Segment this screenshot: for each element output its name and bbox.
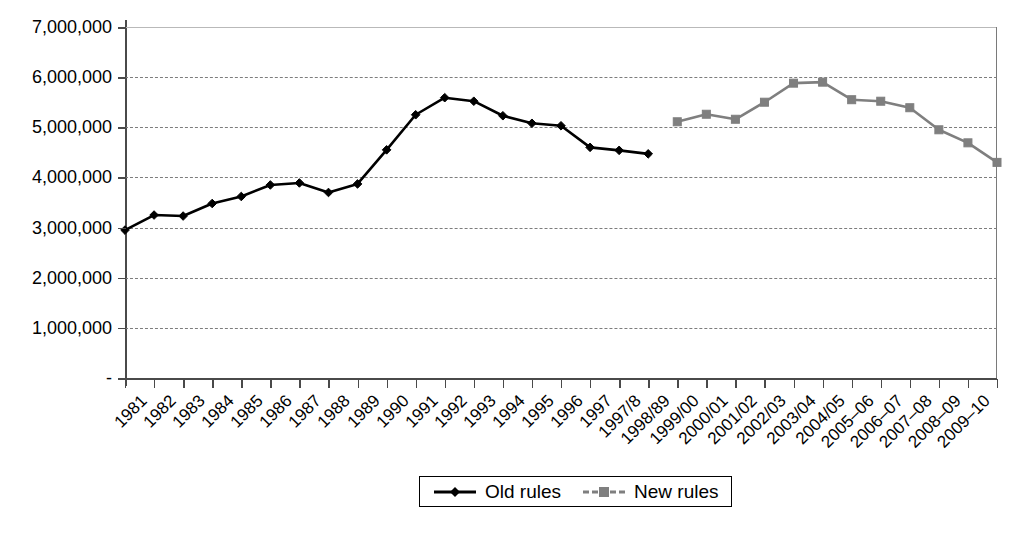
- data-point-marker: [848, 96, 856, 104]
- x-axis-tick: [590, 379, 591, 388]
- data-point-marker: [324, 188, 333, 197]
- data-point-marker: [702, 110, 710, 118]
- x-axis-tick: [328, 379, 329, 388]
- x-axis-tick: [474, 379, 475, 388]
- x-axis-tick: [735, 379, 736, 388]
- data-point-marker: [819, 78, 827, 86]
- data-point-marker: [673, 118, 681, 126]
- data-point-marker: [731, 115, 739, 123]
- legend-entry: New rules: [581, 482, 718, 501]
- y-axis-tick: [118, 77, 126, 79]
- data-point-marker: [790, 79, 798, 87]
- x-axis-tick: [997, 379, 998, 388]
- data-point-marker: [760, 98, 768, 106]
- x-axis-tick: [241, 379, 242, 388]
- x-axis-tick: [445, 379, 446, 388]
- x-axis-tick: [183, 379, 184, 388]
- data-point-marker: [993, 158, 1001, 166]
- line-chart: -1,000,0002,000,0003,000,0004,000,0005,0…: [0, 0, 1015, 533]
- x-axis-tick: [706, 379, 707, 388]
- legend-label: Old rules: [485, 482, 561, 501]
- x-axis-tick: [910, 379, 911, 388]
- legend-square-icon: [581, 484, 627, 500]
- x-axis-tick: [503, 379, 504, 388]
- x-axis-tick: [823, 379, 824, 388]
- x-axis-tick: [416, 379, 417, 388]
- x-axis-tick: [881, 379, 882, 388]
- x-axis-tick: [619, 379, 620, 388]
- x-axis-tick: [648, 379, 649, 388]
- data-point-marker: [499, 111, 508, 120]
- chart-legend: Old rulesNew rules: [419, 476, 732, 507]
- y-axis-tick: [118, 228, 126, 230]
- x-axis-tick: [532, 379, 533, 388]
- legend-label: New rules: [634, 482, 718, 501]
- y-axis-tick: [118, 328, 126, 330]
- x-axis-tick: [677, 379, 678, 388]
- data-point-marker: [179, 212, 188, 221]
- data-point-marker: [528, 119, 537, 128]
- y-axis-tick: [118, 278, 126, 280]
- data-point-marker: [237, 192, 246, 201]
- y-axis-tick: [118, 177, 126, 179]
- series-layer: [0, 0, 1015, 533]
- x-axis-tick: [561, 379, 562, 388]
- x-axis-tick: [968, 379, 969, 388]
- data-point-marker: [470, 97, 479, 106]
- x-axis-tick: [852, 379, 853, 388]
- data-point-marker: [615, 146, 624, 155]
- x-axis-tick: [939, 379, 940, 388]
- series-line: [125, 98, 648, 230]
- series-old-rules: [121, 93, 653, 234]
- x-axis-tick: [125, 379, 126, 388]
- x-axis-tick: [764, 379, 765, 388]
- x-axis-tick: [154, 379, 155, 388]
- series-line: [677, 82, 997, 162]
- data-point-marker: [935, 126, 943, 134]
- data-point-marker: [964, 139, 972, 147]
- legend-diamond-icon: [432, 484, 478, 500]
- data-point-marker: [644, 150, 653, 159]
- y-axis-tick: [118, 127, 126, 129]
- data-point-marker: [266, 181, 275, 190]
- x-axis-tick: [387, 379, 388, 388]
- x-axis-tick: [212, 379, 213, 388]
- legend-entry: Old rules: [432, 482, 561, 501]
- x-axis-tick: [358, 379, 359, 388]
- y-axis-tick: [118, 27, 126, 29]
- data-point-marker: [295, 179, 304, 188]
- data-point-marker: [906, 104, 914, 112]
- data-point-marker: [877, 97, 885, 105]
- x-axis-tick: [270, 379, 271, 388]
- data-point-marker: [208, 199, 217, 208]
- x-axis-tick: [299, 379, 300, 388]
- x-axis-tick: [794, 379, 795, 388]
- series-new-rules: [673, 78, 1001, 166]
